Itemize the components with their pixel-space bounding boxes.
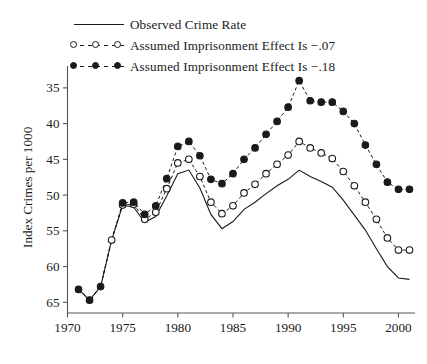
- data-point: [263, 131, 270, 138]
- legend-key-filled-circle-dashed: [68, 58, 130, 76]
- legend-item-effect-018: Assumed Imprisonment Effect Is −.18: [68, 56, 408, 77]
- legend-label-effect-018: Assumed Imprisonment Effect Is −.18: [130, 58, 335, 76]
- data-point: [285, 152, 292, 159]
- legend-item-observed: Observed Crime Rate: [68, 14, 408, 35]
- data-point: [307, 97, 314, 104]
- data-point: [296, 77, 303, 84]
- data-point: [175, 160, 182, 167]
- data-point: [263, 170, 270, 177]
- x-tick-label: 1970: [54, 320, 81, 335]
- data-point: [384, 179, 391, 186]
- chart-figure: Observed Crime Rate Assumed Imprisonment…: [0, 0, 427, 364]
- data-point: [108, 237, 115, 244]
- data-point: [141, 211, 148, 218]
- x-tick-label: 1985: [220, 320, 247, 335]
- data-point: [241, 156, 248, 163]
- data-point: [97, 283, 104, 290]
- y-tick-label: 35: [46, 80, 60, 95]
- chart-legend: Observed Crime Rate Assumed Imprisonment…: [68, 14, 408, 77]
- y-tick-label: 55: [46, 223, 60, 238]
- data-point: [219, 180, 226, 187]
- data-point: [274, 118, 281, 125]
- x-tick-label: 1980: [165, 320, 192, 335]
- data-point: [406, 186, 413, 193]
- legend-item-effect-007: Assumed Imprisonment Effect Is −.07: [68, 35, 408, 56]
- data-point: [340, 108, 347, 115]
- data-point: [373, 216, 380, 223]
- data-point: [252, 181, 259, 188]
- data-point: [152, 202, 159, 209]
- data-point: [384, 235, 391, 242]
- data-point: [241, 190, 248, 197]
- y-tick-label: 50: [46, 188, 60, 203]
- data-point: [197, 173, 204, 180]
- data-point: [252, 145, 259, 152]
- x-tick-label: 1975: [109, 320, 136, 335]
- data-point: [307, 145, 314, 152]
- x-tick-label: 2000: [385, 320, 412, 335]
- y-tick-label: 65: [46, 295, 60, 310]
- data-point: [119, 200, 126, 207]
- data-point: [152, 209, 159, 216]
- data-point: [395, 186, 402, 193]
- data-point: [406, 247, 413, 254]
- legend-key-open-circle-dashed: [68, 37, 130, 55]
- series-2: [79, 77, 413, 300]
- data-point: [351, 182, 358, 189]
- chart-axes: 6560555045403519701975198019851990199520…: [46, 66, 415, 335]
- y-tick-label: 40: [46, 116, 60, 131]
- data-point: [175, 143, 182, 150]
- data-point: [362, 142, 369, 149]
- legend-label-effect-007: Assumed Imprisonment Effect Is −.07: [130, 37, 335, 55]
- data-point: [163, 175, 170, 182]
- data-point: [230, 202, 237, 209]
- data-point: [219, 210, 226, 217]
- chart-series: [75, 77, 413, 303]
- data-point: [296, 138, 303, 145]
- data-point: [373, 161, 380, 168]
- data-point: [186, 138, 193, 145]
- data-point: [130, 199, 137, 206]
- data-point: [340, 168, 347, 175]
- legend-label-observed: Observed Crime Rate: [130, 16, 246, 34]
- data-point: [163, 185, 170, 192]
- data-point: [329, 155, 336, 162]
- data-point: [318, 99, 325, 106]
- x-tick-label: 1995: [330, 320, 357, 335]
- data-point: [329, 99, 336, 106]
- data-point: [351, 120, 358, 127]
- data-point: [75, 286, 82, 293]
- data-point: [285, 104, 292, 111]
- data-point: [274, 161, 281, 168]
- data-point: [197, 152, 204, 159]
- y-axis-title: Index Crimes per 1000: [20, 127, 36, 248]
- data-point: [230, 170, 237, 177]
- data-point: [362, 199, 369, 206]
- data-point: [208, 199, 215, 206]
- data-point: [395, 247, 402, 254]
- y-tick-label: 45: [46, 152, 60, 167]
- data-point: [318, 150, 325, 157]
- y-tick-label: 60: [46, 259, 60, 274]
- data-point: [208, 176, 215, 183]
- x-tick-label: 1990: [275, 320, 302, 335]
- data-point: [186, 156, 193, 163]
- legend-key-solid-line: [68, 16, 130, 34]
- data-point: [86, 297, 93, 304]
